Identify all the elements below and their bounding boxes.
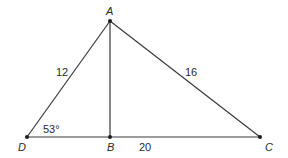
triangle-diagram: A D B C 12 16 20 53° bbox=[0, 0, 288, 158]
point-C bbox=[258, 135, 262, 139]
label-B: B bbox=[107, 141, 114, 153]
point-D bbox=[25, 135, 29, 139]
length-BC: 20 bbox=[139, 141, 151, 153]
angle-D: 53° bbox=[43, 123, 60, 135]
point-A bbox=[108, 19, 112, 23]
label-D: D bbox=[18, 141, 26, 153]
point-B bbox=[108, 135, 112, 139]
label-A: A bbox=[105, 5, 113, 17]
segment-AD bbox=[27, 21, 110, 137]
length-AD: 12 bbox=[56, 66, 68, 78]
length-AC: 16 bbox=[185, 66, 197, 78]
segment-AC bbox=[110, 21, 260, 137]
label-C: C bbox=[265, 141, 273, 153]
